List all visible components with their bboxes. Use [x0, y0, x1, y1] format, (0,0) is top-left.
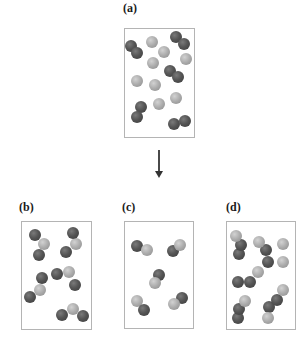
- light-atom-icon: [34, 284, 46, 296]
- dark-atom-icon: [24, 291, 36, 303]
- light-atom-icon: [147, 57, 159, 69]
- dark-atom-icon: [69, 279, 81, 291]
- dark-atom-icon: [67, 227, 79, 239]
- light-atom-icon: [277, 238, 289, 250]
- dark-atom-icon: [131, 47, 143, 59]
- panel-label-a: (a): [123, 2, 137, 14]
- light-atom-icon: [149, 277, 161, 289]
- dark-atom-icon: [232, 276, 244, 288]
- dark-atom-icon: [77, 310, 89, 322]
- light-atom-icon: [252, 266, 264, 278]
- light-atom-icon: [131, 75, 143, 87]
- dark-atom-icon: [179, 115, 191, 127]
- light-atom-icon: [170, 92, 182, 104]
- dark-atom-icon: [33, 249, 45, 261]
- light-atom-icon: [239, 295, 251, 307]
- dark-atom-icon: [244, 276, 256, 288]
- dark-atom-icon: [178, 38, 190, 50]
- panel-label-c: (c): [122, 201, 135, 213]
- dark-atom-icon: [138, 304, 150, 316]
- light-atom-icon: [141, 244, 153, 256]
- dark-atom-icon: [29, 229, 41, 241]
- dark-atom-icon: [60, 246, 72, 258]
- dark-atom-icon: [262, 256, 274, 268]
- reaction-arrow-shaft: [158, 150, 160, 172]
- dark-atom-icon: [36, 272, 48, 284]
- dark-atom-icon: [56, 309, 68, 321]
- dark-atom-icon: [131, 111, 143, 123]
- light-atom-icon: [230, 230, 242, 242]
- light-atom-icon: [253, 236, 265, 248]
- light-atom-icon: [63, 266, 75, 278]
- panel-label-b: (b): [19, 201, 34, 213]
- light-atom-icon: [168, 298, 180, 310]
- light-atom-icon: [277, 284, 289, 296]
- light-atom-icon: [146, 36, 158, 48]
- light-atom-icon: [277, 256, 289, 268]
- down-arrow-icon: [155, 171, 163, 178]
- panel-label-d: (d): [226, 201, 241, 213]
- light-atom-icon: [158, 46, 170, 58]
- dark-atom-icon: [172, 71, 184, 83]
- light-atom-icon: [174, 239, 186, 251]
- light-atom-icon: [180, 53, 192, 65]
- light-atom-icon: [149, 79, 161, 91]
- dark-atom-icon: [51, 268, 63, 280]
- light-atom-icon: [153, 98, 165, 110]
- light-atom-icon: [262, 312, 274, 324]
- light-atom-icon: [70, 238, 82, 250]
